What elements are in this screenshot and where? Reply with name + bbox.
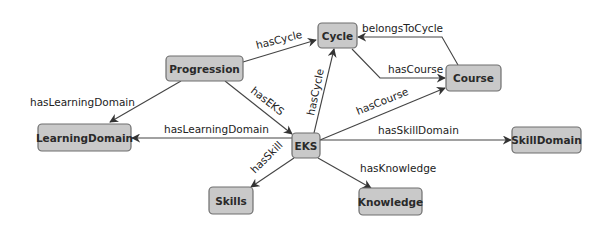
edge-progression-haslearningdomain: hasLearningDomain — [30, 81, 181, 122]
edge-label-progression-haslearningdomain: hasLearningDomain — [30, 96, 135, 108]
edge-label-eks-hasknowledge: hasKnowledge — [360, 162, 436, 174]
node-label-learningdomain: LearningDomain — [36, 132, 133, 144]
node-label-eks: EKS — [295, 140, 318, 152]
node-cycle[interactable]: Cycle — [318, 23, 357, 48]
node-label-skilldomain: SkillDomain — [511, 134, 581, 146]
edge-label-eks-hascourse: hasCourse — [354, 85, 410, 117]
node-learningdomain[interactable]: LearningDomain — [36, 124, 133, 151]
edge-progression-hascycle: hasCycle — [243, 28, 316, 62]
edge-label-cycle-hascourse: hasCourse — [388, 63, 443, 75]
ontology-diagram: hasCycle hasLearningDomain hasEKS belong… — [0, 0, 610, 231]
node-course[interactable]: Course — [446, 65, 501, 91]
edge-cycle-hascourse: hasCourse — [352, 49, 445, 78]
edge-label-course-belongstocycle: belongsToCycle — [362, 22, 443, 34]
edge-label-eks-haslearningdomain: hasLearningDomain — [164, 123, 269, 135]
node-skilldomain[interactable]: SkillDomain — [511, 127, 581, 153]
node-skills[interactable]: Skills — [209, 187, 253, 214]
edge-course-belongstocycle: belongsToCycle — [358, 22, 458, 65]
node-label-course: Course — [453, 72, 494, 84]
edge-label-progression-haseks: hasEKS — [249, 84, 287, 118]
edge-eks-hasknowledge: hasKnowledge — [318, 158, 436, 188]
node-knowledge[interactable]: Knowledge — [358, 188, 423, 215]
node-label-progression: Progression — [169, 63, 240, 75]
node-label-skills: Skills — [215, 195, 247, 207]
node-label-cycle: Cycle — [322, 30, 354, 42]
node-eks[interactable]: EKS — [292, 133, 320, 158]
node-progression[interactable]: Progression — [166, 56, 243, 81]
edge-eks-hasskilldomain: hasSkillDomain — [320, 124, 511, 140]
edge-label-eks-hasskill: hasSkill — [248, 139, 285, 176]
edge-eks-haslearningdomain: hasLearningDomain — [132, 123, 292, 138]
edge-eks-hasskill: hasSkill — [248, 139, 294, 187]
edge-label-progression-hascycle: hasCycle — [255, 28, 304, 51]
edge-eks-hascycle: hasCycle — [304, 49, 334, 133]
edge-label-eks-hascycle: hasCycle — [304, 68, 326, 117]
node-label-knowledge: Knowledge — [358, 196, 423, 208]
edge-label-eks-hasskilldomain: hasSkillDomain — [378, 124, 459, 136]
